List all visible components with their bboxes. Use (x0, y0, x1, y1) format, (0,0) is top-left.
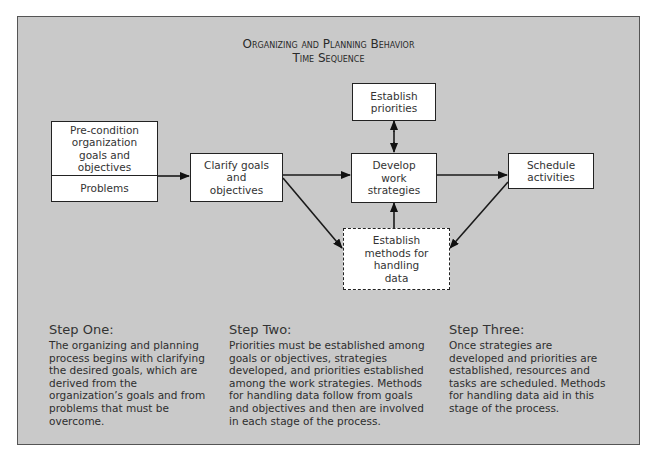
node-priorities: Establish priorities (352, 83, 436, 121)
node-methods: Establish methods for handling data (343, 228, 450, 290)
step-one: Step One: The organizing and planning pr… (49, 322, 209, 427)
step-three-heading: Step Three: (449, 322, 609, 338)
step-two-body: Priorities must be established among goa… (229, 339, 429, 427)
step-three-body: Once strategies are developed and priori… (449, 339, 609, 415)
node-clarify: Clarify goals and objectives (190, 153, 283, 202)
step-one-body: The organizing and planning process begi… (49, 339, 209, 427)
step-three: Step Three: Once strategies are develope… (449, 322, 609, 415)
node-problems-label: Problems (52, 176, 157, 201)
node-schedule: Schedule activities (508, 153, 594, 189)
step-two-heading: Step Two: (229, 322, 429, 338)
step-one-heading: Step One: (49, 322, 209, 338)
node-develop: Develop work strategies (351, 153, 437, 203)
step-two: Step Two: Priorities must be established… (229, 322, 429, 427)
node-precondition: Pre-condition organization goals and obj… (51, 121, 158, 202)
node-precondition-label: Pre-condition organization goals and obj… (52, 122, 157, 176)
